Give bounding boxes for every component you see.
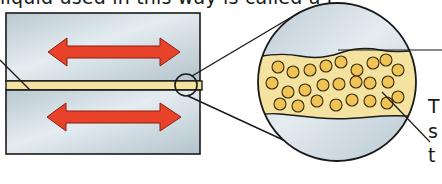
side-label-3: t [428, 146, 435, 165]
lubricant-layer [6, 81, 202, 90]
side-label-1: T [428, 97, 440, 116]
side-label-2: s [428, 122, 438, 141]
lubrication-diagram [0, 0, 442, 184]
